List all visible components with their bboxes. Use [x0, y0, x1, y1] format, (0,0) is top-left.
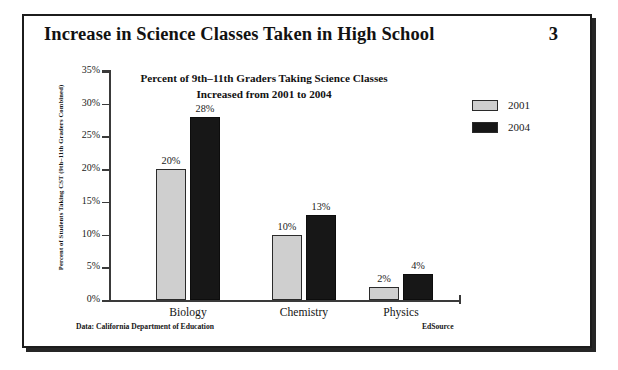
plot-area: Percent of Students Taking CST (9th–11th… — [24, 16, 594, 350]
bar-value-label: 13% — [306, 201, 336, 212]
y-axis-tick-label: 20% — [56, 162, 100, 173]
y-axis-tick — [102, 300, 110, 302]
y-axis-tick — [102, 169, 110, 171]
y-axis-tick-label: 15% — [56, 195, 100, 206]
y-axis-tick-label: 25% — [56, 129, 100, 140]
y-axis-tick — [102, 235, 110, 237]
bar-physics-2004 — [403, 274, 433, 300]
y-axis-tick-label: 30% — [56, 97, 100, 108]
y-axis-tick — [102, 202, 110, 204]
y-axis-tick — [102, 136, 110, 138]
bar-biology-2004 — [190, 117, 220, 300]
bar-value-label: 4% — [403, 260, 433, 271]
y-axis-tick-label: 10% — [56, 228, 100, 239]
bar-chemistry-2004 — [306, 215, 336, 300]
x-axis-label-chemistry: Chemistry — [250, 306, 358, 319]
bar-value-label: 20% — [156, 155, 186, 166]
bar-biology-2001 — [156, 169, 186, 300]
chart-card-frame: Increase in Science Classes Taken in Hig… — [22, 14, 592, 348]
footer-source-note: Data: California Department of Education — [76, 322, 214, 331]
y-axis-tick-label: 5% — [56, 260, 100, 271]
chart-page: Increase in Science Classes Taken in Hig… — [0, 0, 618, 370]
bar-physics-2001 — [369, 287, 399, 300]
x-axis-label-biology: Biology — [134, 306, 242, 319]
y-axis-tick — [102, 71, 110, 73]
bar-value-label: 28% — [190, 103, 220, 114]
y-axis-tick — [102, 104, 110, 106]
x-axis-right-cap — [459, 295, 461, 304]
x-axis-label-physics: Physics — [347, 306, 455, 319]
y-axis-tick-label: 35% — [56, 64, 100, 75]
bar-value-label: 2% — [369, 273, 399, 284]
x-axis-line — [109, 300, 461, 302]
bar-chemistry-2001 — [272, 235, 302, 300]
footer-brand-label: EdSource — [422, 322, 454, 331]
y-axis-tick-label: 0% — [56, 293, 100, 304]
y-axis-tick — [102, 267, 110, 269]
bar-value-label: 10% — [272, 221, 302, 232]
